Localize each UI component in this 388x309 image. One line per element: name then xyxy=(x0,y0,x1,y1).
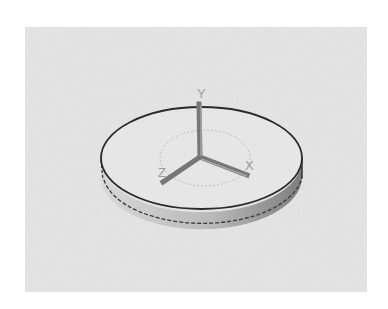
x-axis-label: X xyxy=(245,158,254,173)
z-axis-label: Z xyxy=(158,165,166,180)
y-axis-label: Y xyxy=(197,86,206,101)
cylinder-scene: Y X Z xyxy=(25,27,367,292)
y-axis xyxy=(199,104,200,157)
3d-viewport[interactable]: Y X Z xyxy=(25,27,367,292)
